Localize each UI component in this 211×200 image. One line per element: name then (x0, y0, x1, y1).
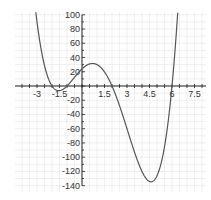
y-tick-label: -140 (62, 181, 80, 191)
grid-lines (15, 12, 206, 192)
y-tick-label: -60 (67, 124, 80, 134)
y-tick-label: -100 (62, 152, 80, 162)
y-tick-label: 100 (65, 10, 80, 20)
y-tick-label: -20 (67, 95, 80, 105)
y-tick-label: -40 (67, 109, 80, 119)
x-tick-label: 1.5 (98, 89, 111, 99)
y-tick-label: -120 (62, 166, 80, 176)
x-tick-label: 7.5 (188, 89, 201, 99)
function-plot: -3-1.51.534.567.5 10080604020-20-40-60-8… (0, 0, 211, 200)
x-tick-label: 3 (124, 89, 129, 99)
y-tick-label: 80 (70, 24, 80, 34)
x-tick-label: 4.5 (143, 89, 156, 99)
x-tick-label: -3 (33, 89, 41, 99)
y-tick-label: 60 (70, 38, 80, 48)
y-tick-label: -80 (67, 138, 80, 148)
y-tick-label: 40 (70, 53, 80, 63)
